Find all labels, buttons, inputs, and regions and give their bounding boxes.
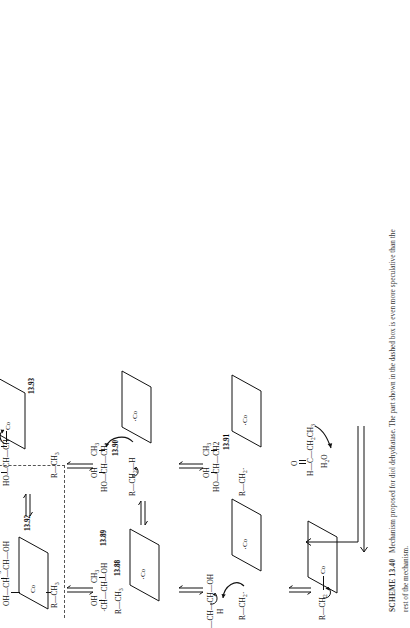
- scheme-page: OH—CH—CH—OH CH3 Co R—CH3 13.92: [0, 0, 270, 614]
- s1392-number: 13.92: [24, 515, 32, 531]
- s1392-cobalt-label: Co: [29, 585, 37, 593]
- equilibrium-arrow-89-90: [137, 500, 149, 526]
- structure-13-93: HO—CH—CH OH CH3 Co R—CH3 13.93: [2, 371, 60, 486]
- s1390-cobalt-label: ·Co: [131, 411, 139, 422]
- equilibrium-arrow-92-93: [22, 493, 34, 517]
- s1391-corrin-plate: ·Co: [232, 374, 262, 448]
- s1388-ch3-group: CH3: [114, 588, 123, 601]
- s1388-corrin-plate: ·Co: [130, 528, 160, 602]
- s1390-branch-oh: OH: [90, 467, 99, 478]
- scheme-caption-line1: SCHEME 13.40 Mechanism proposed for diol…: [388, 229, 397, 612]
- s1391-branch-oh-bond: [211, 472, 217, 473]
- s1391-metal: Co: [241, 415, 249, 423]
- s1393-ch3-group: CH3: [50, 452, 59, 465]
- s1389-branch-oh-bond: [99, 600, 105, 601]
- scheme-caption-text2: rest of the mechanism.: [401, 546, 410, 612]
- lower-left-metal: Co: [241, 539, 249, 547]
- lower-left-cobalt-label: ·Co: [241, 539, 249, 550]
- s1390-metal: Co: [131, 411, 139, 419]
- s1388-number: 13.88: [114, 560, 122, 576]
- s1391-ch2-group: CH2: [238, 470, 247, 483]
- s1391-branch-oh: OH: [202, 467, 211, 478]
- bottom-left-cobalt-label: Co: [319, 566, 327, 574]
- s1389-chain: ·CH—CH—OH: [100, 563, 109, 612]
- product-oxygen: O: [290, 461, 299, 466]
- cycle-closure-arrow: [300, 418, 370, 558]
- s1388-radical-dot: ·: [138, 577, 148, 580]
- s1392-metal-to-ligand-bond: [46, 592, 51, 593]
- scheme-caption-line2: rest of the mechanism.: [401, 546, 410, 612]
- s1388-metal: Co: [139, 569, 147, 577]
- s1391-number: 13.91: [223, 434, 231, 450]
- s1393-branch-oh-bond: [1, 472, 7, 473]
- s1391-radical-fragment: R—CH2·: [238, 467, 248, 496]
- s1392-corrin-plate: Co: [19, 536, 49, 610]
- s1391-cobalt-label: ·Co: [241, 415, 249, 426]
- scheme-caption-label: SCHEME 13.40: [388, 559, 397, 612]
- structure-lower-left: —CH—CH—OH H R—CH2· ·Co: [212, 494, 278, 612]
- s1392-ch3-group: CH3: [50, 582, 59, 595]
- lower-left-transfer-arrow: [220, 578, 246, 608]
- s1393-lower-ligand: R—CH3: [50, 452, 60, 478]
- s1392-top-chain: OH—CH—CH—OH: [2, 541, 11, 606]
- equilibrium-arrow-88-lower: [178, 584, 204, 596]
- s1390-radical-dot: ·: [130, 419, 140, 422]
- s1393-cobalt-label: Co: [4, 422, 12, 430]
- s1391-chain: HO—CH—CH2: [212, 441, 221, 492]
- structure-13-90: HO—CH—CH· OH CH3 13.90 R—CH2—H: [100, 367, 170, 492]
- rotated-canvas: OH—CH—CH—OH CH3 Co R—CH3 13.92: [0, 0, 270, 614]
- s1389-branch-oh: OH: [90, 595, 99, 606]
- structure-13-91: HO—CH—CH2 OH CH3 13.91 R—CH2· ·Co: [212, 367, 274, 492]
- lower-left-r-group: R: [238, 615, 247, 620]
- lower-left-h-curl-arrow: [208, 590, 220, 606]
- s1393-r-group: R: [50, 473, 59, 478]
- s1388-r-group: R: [114, 609, 123, 614]
- s1390-small-radical-arrow: [130, 464, 142, 478]
- s1389-number: 13.89: [100, 530, 108, 546]
- s1391-metal-radical-dot: ·: [240, 423, 250, 426]
- s1390-branch-oh-bond: [99, 472, 105, 473]
- s1391-branch-ch3-bond: [211, 450, 217, 451]
- s1393-corrin-plate: Co: [0, 376, 26, 450]
- s1389-branch-ch3-bond: [99, 577, 105, 578]
- s1392-lower-ligand: R—CH3: [50, 582, 60, 608]
- s1391-radical-dot: ·: [238, 467, 248, 470]
- s1390-donor-r: R: [128, 491, 137, 496]
- bottom-left-r-group: R: [318, 615, 327, 620]
- lower-left-h-atom: H: [216, 609, 225, 614]
- s1388-lower-ligand: R—CH3: [114, 588, 124, 614]
- lower-left-metal-radical-dot: ·: [240, 547, 250, 550]
- s1388-cobalt-label: ·Co: [139, 569, 147, 580]
- s1392-r-group: R: [50, 603, 59, 608]
- scheme-caption-text1: Mechanism proposed for diol dehydratase.…: [388, 229, 397, 553]
- s1390-corrin-plate: ·Co: [122, 370, 152, 444]
- s1393-number: 13.93: [28, 378, 36, 394]
- equilibrium-arrow-90-91: [178, 460, 204, 472]
- lower-left-corrin-plate: ·Co: [232, 498, 262, 572]
- structure-13-92: OH—CH—CH—OH CH3 Co R—CH3 13.92: [2, 502, 60, 612]
- s1392-branch-bond: [1, 578, 7, 579]
